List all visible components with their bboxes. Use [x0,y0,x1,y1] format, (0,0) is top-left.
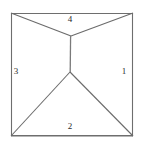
region-label-right: 1 [117,67,131,76]
upper-right-spoke [71,13,133,36]
region-label-top: 4 [63,15,77,24]
region-label-bottom: 2 [63,122,77,131]
diagram-canvas: 4 1 2 3 [0,0,144,149]
lower-right-spoke [70,72,133,136]
upper-left-spoke [11,13,71,36]
lower-left-spoke [11,72,70,136]
region-label-left: 3 [9,67,23,76]
